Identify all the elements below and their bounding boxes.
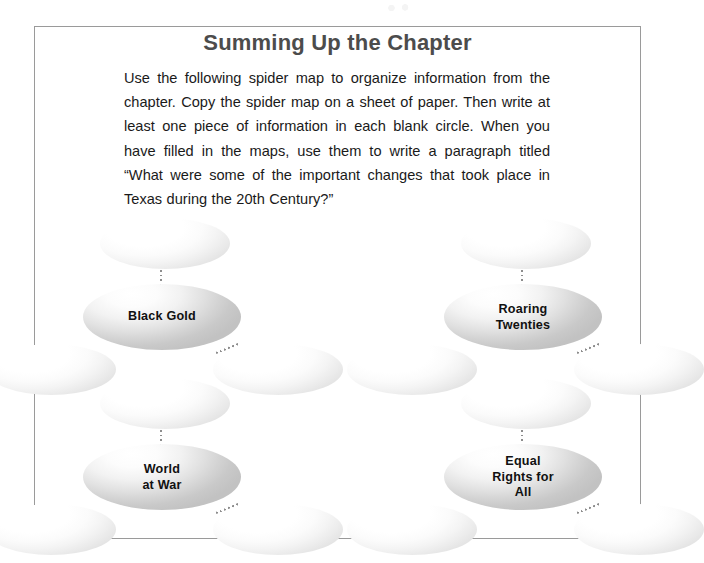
topic-label-roaring-twenties: Roaring Twenties (444, 302, 602, 333)
blank-circle-black-gold-top[interactable] (100, 218, 230, 269)
topic-label-world-at-war: World at War (83, 462, 241, 493)
page-title: Summing Up the Chapter (34, 30, 641, 56)
blank-circle-black-gold-right[interactable] (213, 344, 343, 395)
topic-label-black-gold: Black Gold (83, 309, 241, 325)
blank-circle-roaring-twenties-top[interactable] (461, 218, 591, 269)
blank-circle-equal-rights-top[interactable] (461, 378, 591, 429)
blank-circle-world-at-war-top[interactable] (100, 378, 230, 429)
blank-circle-world-at-war-right[interactable] (213, 504, 343, 555)
blank-circle-world-at-war-left[interactable] (0, 504, 116, 555)
topic-label-equal-rights: Equal Rights for All (444, 454, 602, 501)
blank-circle-equal-rights-right[interactable] (574, 504, 704, 555)
scan-artifact (384, 2, 418, 14)
blank-circle-roaring-twenties-right[interactable] (574, 344, 704, 395)
topic-circle-equal-rights[interactable]: Equal Rights for All (444, 444, 602, 510)
blank-circle-equal-rights-left[interactable] (347, 504, 477, 555)
blank-circle-roaring-twenties-left[interactable] (347, 344, 477, 395)
topic-circle-world-at-war[interactable]: World at War (83, 444, 241, 510)
instructions-paragraph: Use the following spider map to organize… (124, 66, 550, 211)
topic-circle-black-gold[interactable]: Black Gold (83, 284, 241, 350)
topic-circle-roaring-twenties[interactable]: Roaring Twenties (444, 284, 602, 350)
